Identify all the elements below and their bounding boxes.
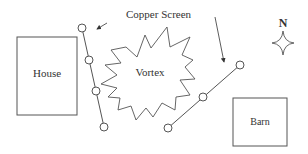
barn-building: Barn (233, 98, 287, 146)
barn-label: Barn (250, 116, 269, 127)
screen-node (100, 123, 108, 131)
compass-north-icon: N (279, 16, 288, 30)
copper-screen-label: Copper Screen (126, 8, 192, 20)
screen-node (164, 124, 172, 132)
vortex-label: Vortex (135, 66, 165, 78)
screen-node (85, 56, 93, 64)
site-diagram: House Barn Copper Screen Vortex N (0, 0, 308, 154)
north-compass: N (272, 16, 294, 55)
house-building: House (17, 37, 77, 115)
copper-screen-left (78, 24, 108, 131)
arrow-to-right-screen (215, 17, 224, 62)
screen-node (236, 61, 244, 69)
screen-node (199, 93, 207, 101)
screen-node (78, 24, 86, 32)
screen-node (92, 87, 100, 95)
house-label: House (33, 67, 61, 79)
compass-star-icon (272, 31, 294, 55)
arrow-to-left-screen (97, 23, 107, 29)
vortex-shape: Vortex (101, 27, 195, 120)
